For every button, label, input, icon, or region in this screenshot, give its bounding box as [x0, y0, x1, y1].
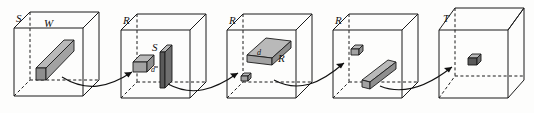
figure-canvas: S W R S d [0, 0, 534, 113]
panel-5: T [439, 8, 524, 98]
panel-4-hidden-edge-diagonal [333, 82, 349, 98]
panel-3-hidden-edge-diagonal [227, 82, 243, 98]
panel-4-diagonal-bar [362, 60, 396, 89]
panel-2-corner-label: R [122, 14, 130, 26]
panel-5-right-face [508, 8, 524, 98]
panel-2-face-label: S [152, 41, 158, 53]
panel-4-right-face [402, 14, 418, 98]
panel-3-corner-label: R [228, 14, 236, 26]
panel-1-hidden-edge-diagonal [14, 80, 30, 96]
panel-2-dimension-label: d [151, 65, 156, 74]
panel-1-top-face [14, 12, 99, 28]
panel-4: R [333, 14, 418, 98]
panel-5-top-face [439, 8, 524, 30]
panel-2-hidden-edge-diagonal [121, 82, 137, 98]
panel-2-right-face [190, 14, 206, 98]
shape-transformation-figure: S W R S d [0, 0, 534, 113]
panel-4-top-face [333, 14, 418, 30]
arrow-3-head [336, 63, 344, 69]
panel-1-face-label: W [44, 17, 54, 29]
panel-5-corner-label: T [443, 12, 450, 24]
panel-2: R S d [121, 14, 206, 98]
panel-4-corner-label: R [334, 14, 342, 26]
panel-3-face-label: R [277, 52, 285, 64]
panel-2-top-face [121, 14, 206, 30]
panel-1-corner-label: S [16, 12, 22, 24]
panel-1: S W [14, 12, 99, 96]
panel-3-small-cube [241, 73, 251, 81]
panel-3-top-face [227, 14, 312, 30]
panel-2-vertical-plate [160, 45, 172, 88]
panel-4-small-cube [351, 45, 363, 55]
panel-5-hidden-edge-diagonal [439, 76, 455, 98]
panel-5-small-cube [468, 54, 481, 65]
panel-1-right-face [83, 12, 99, 96]
panel-1-diagonal-bar [36, 40, 74, 80]
